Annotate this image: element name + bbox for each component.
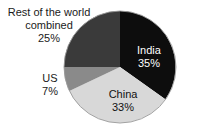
pie-label-china: China 33% (98, 88, 148, 114)
pie-label-rest-of-world-name-line2: combined (1, 19, 97, 32)
pie-label-rest-of-world-name-line1: Rest of the world (1, 6, 97, 19)
pie-label-us-percent: 7% (28, 85, 72, 98)
pie-chart-figure: Rest of the world combined 25% US 7% Ind… (0, 0, 199, 134)
pie-label-us: US 7% (28, 72, 72, 98)
pie-label-china-name: China (98, 88, 148, 101)
pie-label-us-name: US (28, 72, 72, 85)
pie-label-china-percent: 33% (98, 101, 148, 114)
pie-label-rest-of-world-percent: 25% (1, 32, 97, 45)
pie-label-india: India 35% (126, 44, 172, 70)
pie-label-india-percent: 35% (126, 57, 172, 70)
pie-label-india-name: India (126, 44, 172, 57)
pie-label-rest-of-world: Rest of the world combined 25% (1, 6, 97, 45)
